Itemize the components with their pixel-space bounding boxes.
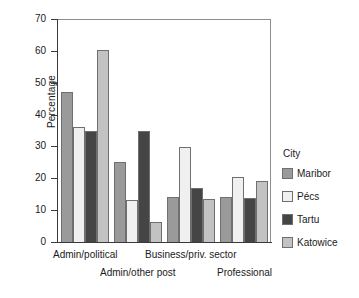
y-axis-tick [51, 210, 57, 211]
legend-item-label: Pécs [297, 191, 319, 202]
y-axis-tick-label: 10 [6, 205, 46, 215]
x-axis-line [57, 242, 272, 243]
x-axis-tick-label: Professional [217, 267, 272, 278]
bar-group [220, 19, 268, 242]
bar [97, 50, 109, 242]
bar [73, 127, 85, 242]
legend-item: Tartu [282, 214, 338, 225]
y-axis-tick-label: 60 [6, 46, 46, 56]
y-axis-tick [51, 146, 57, 147]
legend-swatch [282, 168, 293, 179]
y-axis-tick-label: 50 [6, 78, 46, 88]
bar [256, 181, 268, 242]
legend-swatch [282, 237, 293, 248]
y-axis-tick-label: 30 [6, 141, 46, 151]
y-axis-tick-label: 0 [6, 237, 46, 247]
bar [85, 131, 97, 242]
y-axis-tick-label: 40 [6, 110, 46, 120]
bars-layer [58, 19, 271, 242]
bar [150, 222, 162, 242]
y-axis-tick [51, 83, 57, 84]
bar [61, 92, 73, 242]
legend-swatch [282, 191, 293, 202]
bar-group [114, 19, 162, 242]
bar [203, 199, 215, 242]
legend-item: Katowice [282, 237, 338, 248]
y-axis-tick [51, 178, 57, 179]
bar-group [167, 19, 215, 242]
x-axis-tick-label: Admin/other post [100, 267, 176, 278]
bar-group [61, 19, 109, 242]
bar [220, 197, 232, 242]
legend-item: Maribor [282, 168, 338, 179]
legend-item-label: Tartu [297, 214, 319, 225]
y-axis-title: Percentage [46, 57, 57, 147]
legend-title: City [282, 148, 338, 159]
bar [167, 197, 179, 242]
y-axis-tick-label: 70 [6, 14, 46, 24]
y-axis-tick [51, 242, 57, 243]
bar [244, 198, 256, 242]
bar-chart: Percentage 010203040506070 Admin/politic… [0, 0, 359, 298]
legend-swatch [282, 214, 293, 225]
bar [138, 131, 150, 242]
bar [179, 147, 191, 242]
bar [114, 162, 126, 242]
bar [126, 200, 138, 242]
x-axis-tick-label: Admin/political [53, 249, 117, 260]
y-axis-tick [51, 19, 57, 20]
legend-item-label: Katowice [297, 237, 338, 248]
bar [232, 177, 244, 242]
bar [191, 188, 203, 242]
x-axis-tick-label: Business/priv. sector [145, 249, 237, 260]
legend-item: Pécs [282, 191, 338, 202]
legend: City MariborPécsTartuKatowice [282, 148, 338, 260]
legend-items: MariborPécsTartuKatowice [282, 168, 338, 248]
y-axis-tick [51, 51, 57, 52]
y-axis-tick-label: 20 [6, 173, 46, 183]
legend-item-label: Maribor [297, 168, 331, 179]
y-axis-tick [51, 115, 57, 116]
